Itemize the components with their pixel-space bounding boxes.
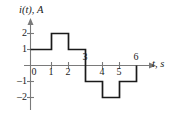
x-tick-label-1: 1 — [45, 67, 57, 77]
current-waveform-figure: i(t), A t, s 2 1 –1 –2 0 1 2 3 4 5 6 — [0, 0, 175, 127]
y-tick-label-minus2: –2 — [9, 92, 27, 102]
x-tick-label-4: 4 — [96, 67, 108, 77]
y-axis-arrowhead — [28, 18, 34, 25]
x-tick-label-3: 3 — [79, 52, 91, 62]
plot-area — [0, 0, 175, 127]
y-axis-label: i(t), A — [19, 5, 43, 16]
y-tick-label-1: 1 — [13, 44, 27, 54]
x-tick-label-5: 5 — [113, 67, 125, 77]
y-tick-label-2: 2 — [13, 28, 27, 38]
y-tick-label-minus1: –1 — [9, 76, 27, 86]
x-axis-label: t, s — [152, 59, 164, 70]
x-tick-label-6: 6 — [130, 52, 142, 62]
x-tick-label-2: 2 — [62, 67, 74, 77]
x-tick-label-0: 0 — [28, 67, 40, 77]
